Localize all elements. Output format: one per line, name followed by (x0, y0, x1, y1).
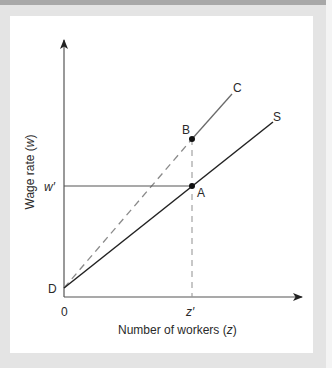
w-prime-label: w′ (44, 180, 56, 194)
x-axis-label-text: Number of workers ( (118, 323, 227, 337)
point-D-label: D (48, 282, 57, 296)
cost-line-C (192, 94, 232, 139)
wage-diagram: B A D C S 0 w′ z′ Number of workers (z) … (0, 0, 332, 368)
y-axis-label-close: ) (23, 135, 37, 139)
curve-S-label: S (273, 110, 281, 124)
origin-label: 0 (61, 305, 68, 319)
x-axis-label-close: ) (233, 323, 237, 337)
point-A-label: A (197, 186, 205, 200)
z-prime-label: z′ (185, 305, 195, 319)
y-axis-label-text: Wage rate ( (23, 147, 37, 209)
point-A-marker (189, 183, 195, 189)
x-axis-label: Number of workers (z) (118, 323, 237, 337)
x-axis-variable: z (226, 323, 233, 337)
point-B-label: B (182, 123, 190, 137)
supply-line-S (64, 122, 273, 288)
curve-C-label: C (233, 81, 242, 95)
cost-line-dashed-segment (64, 139, 192, 288)
y-axis-label: Wage rate (w) (23, 135, 37, 210)
